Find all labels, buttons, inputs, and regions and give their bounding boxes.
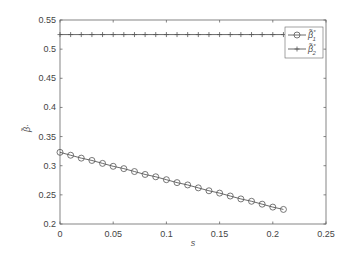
legend: β̃*1β̃*2: [285, 27, 323, 58]
x-tick-label: 0.15: [211, 229, 229, 239]
y-tick-label: 0.45: [38, 73, 56, 83]
y-tick-label: 0.55: [38, 15, 56, 25]
x-tick-label: 0: [57, 229, 62, 239]
y-tick-label: 0.2: [43, 219, 56, 229]
y-tick-label: 0.3: [43, 161, 56, 171]
y-tick-label: 0.25: [38, 190, 56, 200]
y-tick-label: 0.5: [43, 44, 56, 54]
x-tick-label: 0.25: [317, 229, 335, 239]
y-axis-label: β̃·: [21, 124, 32, 133]
y-tick-label: 0.4: [43, 102, 56, 112]
x-tick-label: 0.1: [160, 229, 173, 239]
legend-box: [285, 27, 323, 58]
x-axis-label: s: [191, 238, 196, 248]
x-tick-label: 0.2: [267, 229, 280, 239]
line-chart: 00.050.10.150.20.25 0.20.250.30.350.40.4…: [0, 0, 355, 266]
x-tick-label: 0.05: [104, 229, 122, 239]
y-tick-label: 0.35: [38, 132, 56, 142]
